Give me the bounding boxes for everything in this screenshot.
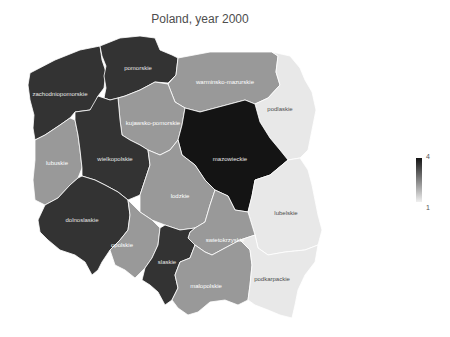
- label-lodzkie: lodzkie: [171, 193, 190, 199]
- label-pomorskie: pomorskie: [124, 65, 152, 71]
- label-podlaskie: podlaskie: [267, 106, 293, 112]
- label-lubelskie: lubelskie: [274, 210, 298, 216]
- label-swietokrzyskie: swietokrzyskie: [206, 237, 245, 243]
- label-malopolskie: malopolskie: [190, 283, 222, 289]
- label-mazowieckie: mazowieckie: [213, 156, 248, 162]
- choropleth-map: zachodniopomorskie pomorskie warminsko-m…: [0, 0, 450, 337]
- label-opolskie: opolskie: [111, 242, 134, 248]
- label-dolnoslaskie: dolnoslaskie: [65, 217, 99, 223]
- label-slaskie: slaskie: [158, 259, 177, 265]
- label-wielkopolskie: wielkopolskie: [96, 156, 133, 162]
- label-podkarpackie: podkarpackie: [254, 276, 290, 282]
- label-zachodniopomorskie: zachodniopomorskie: [32, 91, 88, 97]
- label-warminsko-mazurskie: warminsko-mazurskie: [195, 79, 255, 85]
- legend-max-label: 4: [426, 153, 430, 160]
- legend-colorbar: [416, 158, 422, 202]
- label-kujawsko-pomorskie: kujawsko-pomorskie: [126, 120, 181, 126]
- label-lubuskie: lubuskie: [46, 160, 69, 166]
- legend-min-label: 1: [426, 204, 430, 211]
